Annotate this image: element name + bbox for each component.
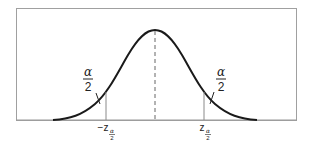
left-critical-label: −z α 2 [98,122,115,141]
right-critical-label: z α 2 [200,122,212,141]
frame [17,9,297,121]
svg-text:−z: −z [98,122,109,133]
normal-curve-diagram: α 2 α 2 −z α 2 z α 2 [0,0,310,150]
svg-text:2: 2 [206,135,210,141]
right-tail-label: α 2 [210,65,226,104]
svg-text:α: α [217,65,225,79]
svg-text:2: 2 [85,80,92,94]
svg-text:2: 2 [110,135,114,141]
left-tail-label: α 2 [83,65,100,104]
svg-text:α: α [110,127,114,134]
svg-text:2: 2 [218,80,225,94]
svg-text:z: z [200,122,205,133]
svg-text:α: α [206,127,210,134]
svg-text:α: α [84,65,92,79]
